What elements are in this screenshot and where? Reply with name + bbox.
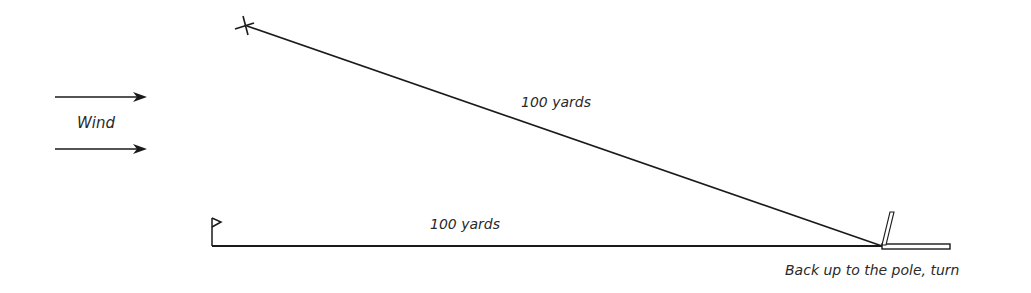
diagonal-path	[247, 26, 882, 246]
wind-label: Wind	[77, 114, 115, 132]
pole-icon	[882, 212, 894, 245]
turn-bar	[882, 244, 950, 249]
baseline-distance-label: 100 yards	[430, 216, 500, 232]
diagram-canvas	[0, 0, 1031, 293]
pole-instruction-label: Back up to the pole, turn	[785, 262, 959, 278]
flag-icon	[212, 218, 221, 246]
diagonal-distance-label: 100 yards	[521, 94, 591, 110]
wind-arrow-top-icon	[55, 92, 147, 102]
wind-arrow-bottom-icon	[55, 144, 147, 154]
x-mark-icon	[235, 16, 254, 35]
